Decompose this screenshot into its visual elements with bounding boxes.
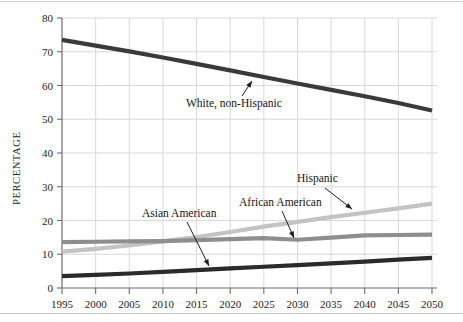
y-tick-label: 20 (42, 215, 54, 227)
y-tick-label: 50 (42, 113, 54, 125)
chart-background (0, 0, 463, 322)
x-tick-label: 2025 (253, 298, 276, 310)
series-label: African American (239, 196, 322, 208)
chart-container: 01020304050607080 1995200020052010201520… (0, 0, 463, 322)
line-chart: 01020304050607080 1995200020052010201520… (0, 0, 463, 322)
y-tick-label: 40 (42, 147, 54, 159)
x-tick-label: 2050 (421, 298, 444, 310)
y-tick-label: 0 (48, 282, 54, 294)
y-tick-label: 70 (42, 46, 54, 58)
x-tick-label: 1995 (51, 298, 74, 310)
x-tick-label: 2030 (286, 298, 309, 310)
series-label: Asian American (142, 207, 217, 219)
x-tick-label: 2020 (219, 298, 242, 310)
x-tick-label: 2015 (186, 298, 209, 310)
x-tick-label: 2035 (320, 298, 343, 310)
y-tick-label: 10 (42, 248, 54, 260)
y-tick-label: 30 (42, 181, 54, 193)
y-tick-label: 60 (42, 80, 54, 92)
x-tick-label: 2000 (85, 298, 108, 310)
series-label: White, non-Hispanic (186, 97, 282, 110)
x-tick-label: 2005 (118, 298, 141, 310)
x-tick-label: 2010 (152, 298, 175, 310)
x-tick-label: 2040 (354, 298, 377, 310)
y-axis-title: PERCENTAGE (11, 132, 22, 205)
x-tick-label: 2045 (387, 298, 410, 310)
y-tick-label: 80 (42, 12, 54, 24)
series-label: Hispanic (297, 172, 338, 185)
